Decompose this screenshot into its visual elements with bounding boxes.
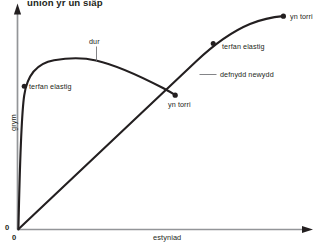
chart-canvas	[0, 0, 325, 245]
y-axis-title: grym	[10, 114, 17, 131]
y-axis-origin-label: 0	[5, 224, 9, 232]
y-axis-arrow-icon	[14, 4, 21, 15]
defnydd-newydd-break-label: yn torri	[290, 13, 313, 20]
dur-break-marker	[173, 93, 178, 98]
stress-strain-figure: union yr un siâp	[0, 0, 325, 245]
series-dur	[18, 47, 177, 230]
dur-break-label: yn torri	[168, 101, 191, 108]
x-axis-arrow-icon	[302, 226, 313, 233]
defnydd-newydd-label: defnydd newydd	[220, 71, 274, 78]
defnydd-newydd-elastic-limit-label: terfan elastig	[222, 43, 265, 50]
defnydd-newydd-break-marker	[281, 14, 286, 19]
x-axis-title: estyniad	[153, 234, 181, 241]
x-axis-origin-label: 0	[12, 234, 16, 242]
dur-label: dur	[89, 38, 100, 45]
axis-group	[14, 4, 313, 234]
dur-elastic-limit-label: terfan elastig	[29, 83, 72, 90]
dur-elastic-limit-marker	[22, 84, 27, 89]
defnydd-newydd-elastic-limit-marker	[211, 41, 216, 46]
